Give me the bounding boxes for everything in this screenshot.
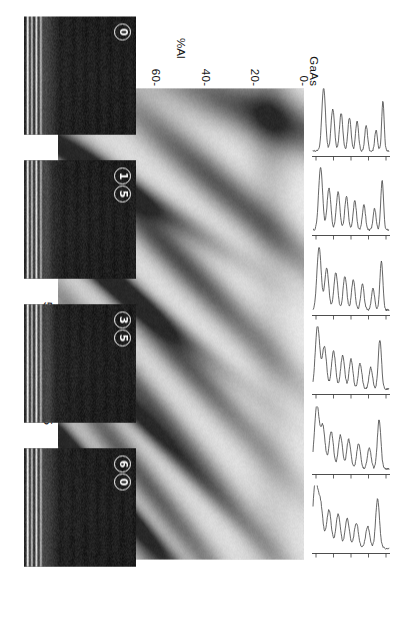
profile-trace-2 bbox=[310, 167, 392, 241]
badge-digit: 5 bbox=[114, 185, 131, 202]
badge-digit: 5 bbox=[114, 329, 131, 346]
micrograph-inset-0: 0 bbox=[24, 16, 136, 134]
profile-trace-6 bbox=[310, 485, 392, 559]
micrograph-inset-15: 15 bbox=[24, 160, 136, 278]
badge-digit: 0 bbox=[114, 473, 131, 490]
y-axis-tick-label: 40- bbox=[200, 68, 212, 86]
profile-trace-5 bbox=[310, 406, 392, 480]
micrograph-badge-35: 35 bbox=[114, 311, 131, 347]
profile-trace-row bbox=[310, 88, 392, 559]
figure-root: Distance (nm) 0255075100 GaAs %Al 0 AlAs… bbox=[0, 0, 396, 619]
profile-trace-svg bbox=[310, 485, 392, 559]
profile-trace-1 bbox=[310, 88, 392, 162]
micrograph-inset-35: 35 bbox=[24, 304, 136, 422]
micrograph-inset-strip: 0 15 35 60 bbox=[12, 16, 136, 603]
y-axis-tick-label: 60- bbox=[150, 68, 162, 86]
badge-digit: 6 bbox=[114, 455, 131, 472]
profile-trace-svg bbox=[310, 167, 392, 241]
y-axis-tick-label: 0- bbox=[298, 75, 310, 86]
micrograph-inset-60: 60 bbox=[24, 448, 136, 566]
profile-trace-4 bbox=[310, 326, 392, 400]
profile-trace-svg bbox=[310, 247, 392, 321]
profile-trace-svg bbox=[310, 326, 392, 400]
profile-trace-3 bbox=[310, 247, 392, 321]
badge-digit: 0 bbox=[114, 23, 131, 40]
profile-trace-svg bbox=[310, 406, 392, 480]
micrograph-badge-15: 15 bbox=[114, 167, 131, 203]
badge-digit: 3 bbox=[114, 311, 131, 328]
profile-trace-svg bbox=[310, 88, 392, 162]
y-axis-title: %Al bbox=[175, 38, 187, 58]
badge-digit: 1 bbox=[114, 167, 131, 184]
micrograph-badge-60: 60 bbox=[114, 455, 131, 491]
micrograph-badge-0: 0 bbox=[114, 23, 131, 41]
y-axis-tick-label: 20- bbox=[249, 68, 261, 86]
